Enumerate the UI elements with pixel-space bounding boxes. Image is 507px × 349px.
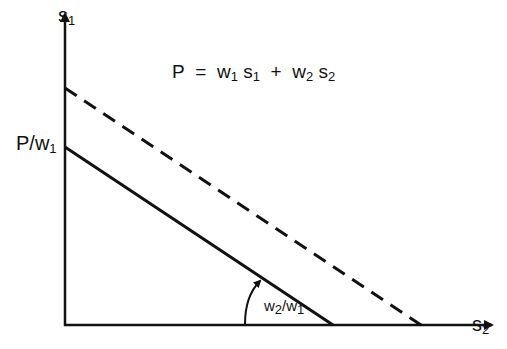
diagram-canvas	[0, 0, 507, 349]
equation: P = w1 s1 + w2 s2	[172, 62, 335, 83]
slope-label: w2/w1	[264, 298, 304, 316]
y-axis-label: s1	[58, 5, 75, 27]
higher-budget-line	[65, 88, 421, 325]
slope-angle-arc	[245, 281, 260, 324]
intercept-label: P/w1	[16, 133, 57, 155]
x-axis-label: s2	[472, 314, 489, 336]
